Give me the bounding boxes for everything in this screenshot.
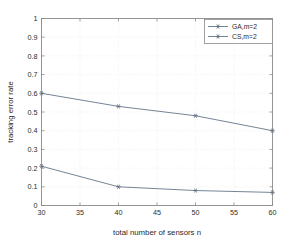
y-tick-label-9: 0.9 <box>28 33 38 42</box>
y-tick-label-3: 0.3 <box>28 145 38 154</box>
x-tick-label-1: 35 <box>76 208 84 217</box>
y-tick-label-6: 0.6 <box>28 89 38 98</box>
y-tick-label-8: 0.8 <box>28 52 38 61</box>
y-tick-label-10: 1 <box>34 14 38 23</box>
chart-figure: 00.10.20.30.40.50.60.70.80.91 3035404550… <box>0 0 293 241</box>
y-tick-label-1: 0.1 <box>28 182 38 191</box>
x-tick-label-4: 50 <box>192 208 200 217</box>
y-tick-label-2: 0.2 <box>28 164 38 173</box>
y-tick-label-5: 0.5 <box>28 108 38 117</box>
x-tick-label-6: 60 <box>269 208 277 217</box>
line-chart: 00.10.20.30.40.50.60.70.80.91 3035404550… <box>0 0 293 241</box>
y-tick-label-4: 0.4 <box>28 126 38 135</box>
x-tick-label-2: 40 <box>115 208 123 217</box>
y-axis-title: tracking error rate <box>6 81 15 143</box>
x-tick-label-3: 45 <box>153 208 161 217</box>
legend-label-1: CS,m=2 <box>232 33 257 40</box>
legend: GA,m=2 CS,m=2 <box>205 20 273 44</box>
x-axis-title: total number of sensors n <box>113 228 201 237</box>
legend-label-0: GA,m=2 <box>232 23 257 30</box>
x-tick-label-5: 55 <box>230 208 238 217</box>
y-tick-label-7: 0.7 <box>28 70 38 79</box>
x-tick-label-0: 30 <box>38 208 46 217</box>
